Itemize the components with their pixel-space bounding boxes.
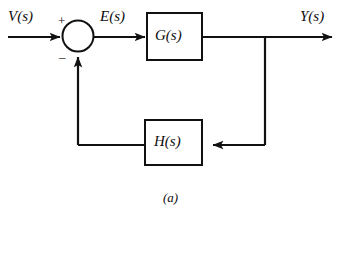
figure-canvas: V(s) E(s) Y(s) G(s) H(s) + – (a) — [0, 0, 343, 278]
output-signal-label: Y(s) — [300, 9, 324, 24]
summing-junction — [63, 21, 94, 52]
forward-block-label: G(s) — [155, 28, 182, 43]
feedback-block-label: H(s) — [154, 134, 181, 149]
summing-junction-plus-sign: + — [58, 14, 65, 27]
input-signal-label: V(s) — [8, 9, 33, 24]
error-signal-label: E(s) — [100, 9, 125, 24]
summing-junction-minus-sign: – — [59, 50, 66, 63]
figure-caption: (a) — [163, 191, 178, 204]
